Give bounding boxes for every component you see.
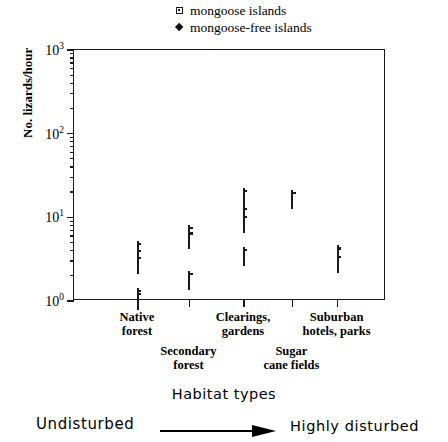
legend-item-mongoose-islands: mongoose islands [168,2,408,19]
legend-item-mongoose-free-islands: mongoose-free islands [168,19,408,36]
x-axis-label-3: Clearings,gardens [216,311,271,338]
x-axis-tick [189,299,191,307]
open-square-icon [291,190,293,209]
disturbance-gradient: Undisturbed Highly disturbed [0,412,448,440]
x-axis-label-5: Suburbanhotels, parks [303,311,371,338]
data-point-mongoose-island [243,215,245,233]
y-axis-tick [67,217,74,219]
data-point-mongoose-island [243,248,245,266]
open-square-icon [137,291,139,310]
open-square-icon [243,188,245,207]
open-square-icon [243,214,245,233]
gradient-right-label: Highly disturbed [290,418,419,434]
x-axis-tick [292,299,294,307]
open-square-icon [243,247,245,266]
figure-caption: Habitat types Undisturbed Highly disturb… [0,386,448,442]
y-axis-tick [67,133,74,135]
data-point-mongoose-island [137,292,139,310]
open-square-icon [337,254,339,273]
open-square-icon [168,7,190,14]
x-axis-title: Habitat types [0,386,448,402]
data-point-mongoose-island [291,191,293,209]
y-axis-tick-label: 103 [45,41,64,59]
filled-diamond-icon [168,24,190,30]
x-axis-tick [243,299,245,307]
x-axis-labels: NativeforestSecondaryforestClearings,gar… [73,309,385,371]
x-axis-tick [337,299,339,307]
plot-area: 100101102103 No. lizards/hour [73,49,385,300]
right-arrow-icon [160,424,276,438]
chart-figure: mongoose islands mongoose-free islands 1… [0,0,448,442]
y-axis-tick [67,49,74,51]
open-square-icon [188,271,190,290]
data-point-mongoose-island [137,256,139,274]
open-square-icon [188,230,190,249]
data-point-mongoose-island [337,255,339,273]
legend-label: mongoose-free islands [190,20,312,36]
y-axis-title: No. lizards/hour [20,48,36,138]
y-axis-tick-label: 102 [45,125,64,143]
x-axis-label-1: Nativeforest [120,311,155,338]
data-point-mongoose-island [188,231,190,249]
x-axis-label-4: Sugarcane fields [263,345,319,372]
legend-label: mongoose islands [190,3,286,19]
data-point-mongoose-island [243,189,245,207]
open-square-icon [137,255,139,274]
y-axis-tick-label: 101 [45,209,64,227]
legend: mongoose islands mongoose-free islands [168,2,408,36]
data-point-mongoose-island [188,272,190,290]
y-axis-tick [67,300,74,302]
x-axis-label-2: Secondaryforest [160,345,216,372]
y-axis-tick-label: 100 [45,292,64,310]
gradient-left-label: Undisturbed [36,415,134,433]
data-points-layer [74,50,384,299]
